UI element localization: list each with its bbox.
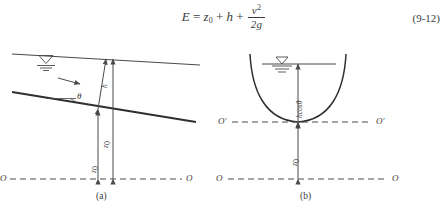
elevation-label-z0-symbol: z bbox=[101, 145, 110, 148]
theta-label: θ bbox=[77, 92, 81, 101]
energy-equation: E=z0+h+ v2 2g bbox=[0, 4, 448, 30]
equation-lhs: E bbox=[182, 9, 190, 24]
depth-label-hcostheta: hcosθ bbox=[296, 101, 304, 118]
panel-a-longitudinal-section bbox=[10, 54, 200, 179]
total-elevation-label-subscript: 0 bbox=[91, 166, 100, 170]
elevation-label-z0-b: z0 bbox=[291, 159, 301, 166]
elevation-label-z0: z0 bbox=[102, 141, 112, 148]
equation-row: E=z0+h+ v2 2g (9-12) bbox=[0, 4, 448, 36]
channel-bed-line bbox=[12, 92, 196, 122]
elevation-label-z0-subscript: 0 bbox=[103, 141, 112, 145]
panel-b-cross-section bbox=[228, 54, 388, 179]
equation-plus-2: + bbox=[233, 9, 247, 24]
figure-container: θ h z0 z0 O O hcosθ z0 O′ O′ O O (a) (b) bbox=[0, 36, 448, 205]
water-surface-symbol bbox=[37, 56, 55, 71]
fraction-numerator: v2 bbox=[248, 4, 265, 17]
datum-label-a-right: O bbox=[186, 174, 193, 183]
fraction-numerator-exponent: 2 bbox=[257, 3, 261, 12]
datum-label-b-left: O bbox=[216, 174, 223, 183]
equation-number: (9-12) bbox=[413, 12, 441, 24]
equation-equals: = bbox=[190, 9, 204, 24]
depth-label-h: h bbox=[101, 84, 109, 88]
equation-velocity-head-fraction: v2 2g bbox=[248, 4, 265, 30]
total-elevation-label: z0 bbox=[90, 166, 100, 173]
reference-label-b-left: O′ bbox=[218, 117, 226, 126]
elevation-label-z0-b-symbol: z bbox=[290, 163, 299, 166]
caption-panel-b: (b) bbox=[300, 191, 311, 201]
fraction-denominator: 2g bbox=[248, 17, 265, 31]
flow-direction-arrow bbox=[58, 78, 80, 84]
elevation-label-z0-b-subscript: 0 bbox=[292, 159, 301, 163]
total-elevation-label-symbol: z bbox=[89, 170, 98, 173]
datum-label-b-right: O bbox=[392, 174, 399, 183]
datum-label-a-left: O bbox=[0, 174, 7, 183]
equation-plus-1: + bbox=[213, 9, 227, 24]
caption-panel-a: (a) bbox=[96, 191, 107, 201]
reference-label-b-right: O′ bbox=[376, 117, 384, 126]
